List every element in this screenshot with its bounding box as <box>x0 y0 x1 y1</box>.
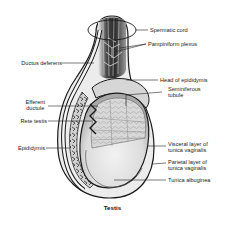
label-seminiferous-tubule-line2: tubule <box>168 92 201 98</box>
label-epididymis: Epididymis <box>18 145 45 151</box>
label-visceral-layer-line2: tunica vaginalis <box>168 147 208 153</box>
label-tunica-albuginea: Tunica albuginea <box>168 177 210 183</box>
label-ductus-deferens: Ductus deferens <box>21 60 62 66</box>
label-pampiniform-plexus: Pampiniform plexus <box>148 41 197 47</box>
testis-body <box>80 93 149 188</box>
label-parietal-layer: Parietal layer of tunica vaginalis <box>168 159 207 172</box>
label-rete-testis: Rete testis <box>21 118 47 124</box>
label-seminiferous-tubule: Seminiferous tubule <box>168 86 201 99</box>
label-visceral-layer: Visceral layer of tunica vaginalis <box>168 141 208 154</box>
label-efferent-ductule: Efferent ductule <box>26 99 46 112</box>
label-spermatic-cord: Spermatic cord <box>150 27 188 33</box>
label-head-of-epididymis: Head of epididymis <box>160 77 208 83</box>
label-parietal-layer-line2: tunica vaginalis <box>168 165 207 171</box>
figure-caption: Testis <box>0 204 225 211</box>
label-efferent-ductule-line2: ductule <box>26 105 46 111</box>
